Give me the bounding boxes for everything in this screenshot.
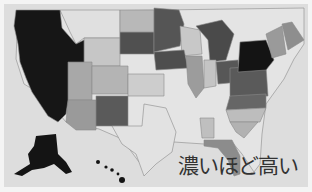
region-alabama (200, 118, 214, 138)
region-virginia (226, 94, 266, 110)
region-hawaii (96, 160, 125, 183)
region-minnesota (154, 8, 184, 52)
region-arizona (66, 100, 96, 130)
region-nevada (68, 62, 92, 100)
region-colorado (128, 74, 164, 96)
legend-caption: 濃いほど高い (178, 149, 298, 179)
region-alaska (14, 134, 72, 176)
region-iowa (154, 50, 188, 70)
region-north-dakota (120, 10, 154, 32)
region-north-carolina (226, 108, 266, 122)
region-indiana (204, 60, 216, 88)
region-utah (92, 66, 128, 94)
map-frame: 濃いほど高い (4, 4, 308, 187)
region-new-mexico (96, 96, 128, 126)
region-dakotas (120, 32, 154, 54)
